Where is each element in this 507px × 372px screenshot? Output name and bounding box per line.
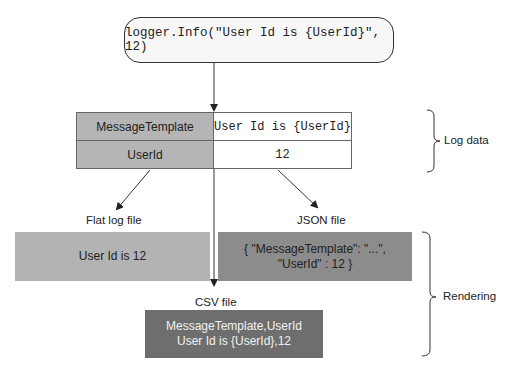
- key-cell-userid: UserId: [76, 140, 214, 169]
- value-cell-messagetemplate: User Id is {UserId}: [213, 112, 352, 141]
- log-data-brace: [427, 110, 440, 172]
- flat-log-content: User Id is 12: [79, 249, 146, 264]
- csv-file-label: CSV file: [195, 296, 237, 308]
- log-data-label: Log data: [444, 134, 489, 146]
- json-line-1: { "MessageTemplate": "...",: [244, 242, 386, 257]
- csv-line-1: MessageTemplate,UserId: [166, 319, 302, 334]
- value-cell-userid: 12: [213, 140, 352, 169]
- flat-log-output-box: User Id is 12: [15, 232, 210, 281]
- rendering-label: Rendering: [443, 290, 496, 302]
- csv-line-2: User Id is {UserId},12: [177, 334, 291, 349]
- rendering-brace: [422, 232, 436, 356]
- json-output-box: { "MessageTemplate": "...", "UserId" : 1…: [218, 232, 412, 281]
- cell-text: User Id is {UserId}: [214, 120, 351, 134]
- json-line-2: "UserId" : 12 }: [278, 257, 353, 272]
- cell-text: MessageTemplate: [96, 120, 193, 134]
- cell-text: UserId: [127, 148, 162, 162]
- flat-log-file-label: Flat log file: [86, 214, 142, 226]
- logger-call-box: logger.Info("User Id is {UserId}", 12): [124, 17, 394, 63]
- json-file-label: JSON file: [297, 214, 346, 226]
- logger-call-code: logger.Info("User Id is {UserId}", 12): [125, 26, 393, 54]
- key-cell-messagetemplate: MessageTemplate: [76, 112, 214, 141]
- cell-text: 12: [275, 148, 289, 162]
- csv-output-box: MessageTemplate,UserId User Id is {UserI…: [145, 310, 323, 358]
